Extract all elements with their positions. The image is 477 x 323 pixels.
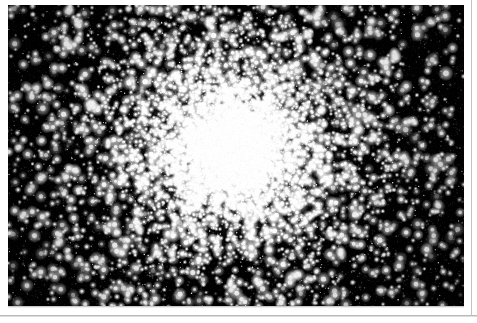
star-field-canvas [8, 5, 464, 306]
page-canvas [0, 0, 477, 323]
globular-cluster-photograph [8, 5, 464, 306]
right-divider-rule [471, 0, 472, 316]
plate-caption [8, 308, 464, 314]
bottom-divider-rule-soft [0, 316, 477, 317]
